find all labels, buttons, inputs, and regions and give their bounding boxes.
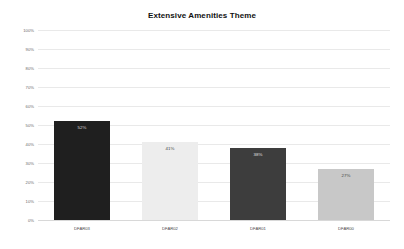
- y-axis-tick-label: 40%: [26, 142, 34, 147]
- y-axis-tick-label: 20%: [26, 180, 34, 185]
- x-axis-tick-label: DFAR00: [302, 226, 390, 231]
- bar-value-label: 27%: [318, 173, 374, 179]
- gridline: [38, 220, 390, 221]
- plot-area: 100%90%80%70%60%50%40%30%20%10%0% 52%DFA…: [38, 30, 390, 220]
- y-axis-tick-label: 70%: [26, 85, 34, 90]
- bar-group: 38%DFAR01: [214, 30, 302, 220]
- bar[interactable]: 27%: [318, 169, 374, 220]
- x-axis-tick-label: DFAR02: [126, 226, 214, 231]
- y-axis-tick-label: 50%: [26, 123, 34, 128]
- y-axis-tick-label: 0%: [28, 218, 34, 223]
- bar-group: 52%DFAR03: [38, 30, 126, 220]
- bar-value-label: 38%: [230, 152, 286, 158]
- bar-group: 27%DFAR00: [302, 30, 390, 220]
- bar[interactable]: 52%: [54, 121, 110, 220]
- y-axis-tick-label: 80%: [26, 66, 34, 71]
- y-axis-tick-label: 100%: [23, 28, 34, 33]
- y-axis-tick-label: 30%: [26, 161, 34, 166]
- x-axis-tick-label: DFAR03: [38, 226, 126, 231]
- bar-series: 52%DFAR0341%DFAR0238%DFAR0127%DFAR00: [38, 30, 390, 220]
- x-axis-tick-label: DFAR01: [214, 226, 302, 231]
- y-axis-tick-label: 90%: [26, 47, 34, 52]
- y-axis-tick-label: 60%: [26, 104, 34, 109]
- chart-title: Extensive Amenities Theme: [0, 11, 404, 21]
- bar-group: 41%DFAR02: [126, 30, 214, 220]
- bar-value-label: 52%: [54, 125, 110, 131]
- bar[interactable]: 38%: [230, 148, 286, 220]
- bar[interactable]: 41%: [142, 142, 198, 220]
- bar-value-label: 41%: [142, 146, 198, 152]
- bar-chart: Extensive Amenities Theme 100%90%80%70%6…: [0, 0, 404, 249]
- y-axis-tick-label: 10%: [26, 199, 34, 204]
